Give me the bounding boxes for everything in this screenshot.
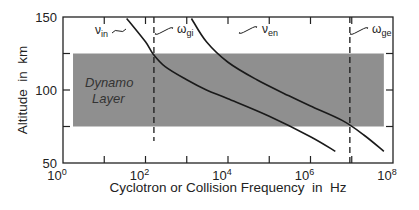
y-tick-label: 150 (35, 10, 57, 25)
label-in: νin (95, 23, 108, 39)
leader-squiggle-icon (239, 26, 256, 33)
leader-squiggle-icon (155, 27, 172, 34)
y-tick-label: 50 (43, 156, 57, 171)
dynamo-layer-region (73, 54, 384, 127)
y-tick-label: 100 (35, 83, 57, 98)
leader-squiggle-icon (112, 29, 126, 33)
x-tick-label: 108 (377, 167, 396, 183)
label-gi: ωgi (177, 22, 193, 38)
leader-squiggle-icon (350, 27, 367, 34)
label-en: νen (262, 22, 278, 38)
dynamo-layer-label-line2: Layer (92, 91, 125, 106)
x-axis-title: Cyclotron or Collision Frequency in Hz (109, 180, 346, 195)
dynamo-layer-label-line1: Dynamo (85, 75, 133, 90)
series-labels: νinνenωgiωge (95, 22, 391, 39)
label-ge: ωge (372, 22, 391, 38)
y-axis-title: Altitude in km (15, 46, 30, 135)
dynamo-layer-band (73, 54, 384, 127)
chart: 100102104106108 50100150 νinνenωgiωge Dy… (0, 0, 419, 210)
